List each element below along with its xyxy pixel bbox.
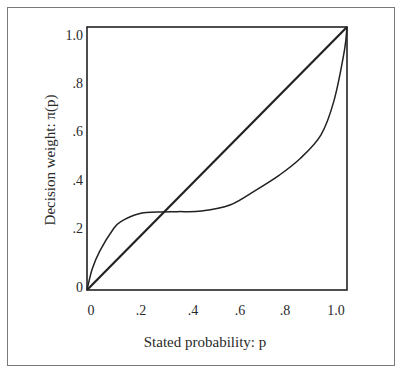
y-tick-label: .2 <box>73 221 84 236</box>
x-tick-label: .8 <box>280 303 291 318</box>
y-tick-label: 0 <box>76 280 83 295</box>
x-tick-label: .4 <box>188 303 199 318</box>
y-tick-label: 1.0 <box>66 28 84 43</box>
y-tick-label: .6 <box>73 124 84 139</box>
x-tick-label: 1.0 <box>327 303 345 318</box>
identity-line <box>87 27 347 290</box>
y-tick-label: .4 <box>73 173 84 188</box>
y-tick-label: .8 <box>73 76 84 91</box>
series-layer <box>87 27 347 290</box>
chart-svg: 1.0 .8 .6 .4 .2 0 0 .2 .4 .6 .8 1.0 Stat… <box>0 0 402 371</box>
y-axis-label: Decision weight: π(p) <box>42 95 59 226</box>
x-tick-label: .2 <box>136 303 147 318</box>
x-axis-label: Stated probability: p <box>144 334 266 350</box>
x-tick-label: 0 <box>88 303 95 318</box>
y-axis-ticks: 1.0 .8 .6 .4 .2 0 <box>66 28 84 295</box>
x-axis-ticks: 0 .2 .4 .6 .8 1.0 <box>88 303 345 318</box>
x-tick-label: .6 <box>235 303 246 318</box>
